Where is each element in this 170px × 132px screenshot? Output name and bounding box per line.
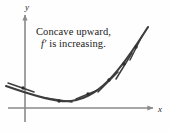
concave-upward-figure: Concave upward, f′ is increasing. y x <box>0 0 170 132</box>
y-axis-label: y <box>25 2 29 12</box>
annotation-line-2: f′ is increasing. <box>36 38 132 50</box>
tangency-point-1 <box>21 86 24 89</box>
tangent-4 <box>98 72 118 92</box>
tangency-points-group <box>21 45 137 102</box>
concavity-annotation: Concave upward, f′ is increasing. <box>36 26 132 50</box>
x-axis-label: x <box>158 104 162 114</box>
graph-canvas <box>0 0 170 132</box>
annotation-line-2-text: is increasing. <box>46 38 106 49</box>
tangency-point-6 <box>134 45 137 48</box>
tangency-point-3 <box>86 92 89 95</box>
tangency-point-2 <box>57 99 60 102</box>
tangent-5 <box>116 53 132 79</box>
tangency-point-5 <box>122 62 125 65</box>
annotation-line-1: Concave upward, <box>36 26 132 38</box>
tangency-point-4 <box>107 78 110 81</box>
